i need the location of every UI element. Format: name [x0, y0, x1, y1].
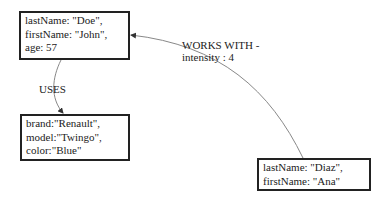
edge-label-uses: USES — [39, 83, 66, 95]
edge-label-line: WORKS WITH - — [182, 39, 259, 51]
edge-label-line: intensity : 4 — [182, 51, 259, 63]
node-car-renault[interactable]: brand:"Renault", model:"Twingo", color:"… — [20, 114, 130, 161]
node-line: brand:"Renault", — [26, 117, 124, 131]
edge-label-works-with: WORKS WITH - intensity : 4 — [182, 39, 259, 63]
node-line: firstName: "John", — [25, 28, 124, 42]
node-line: color:"Blue" — [26, 144, 124, 158]
node-line: lastName: "Diaz", — [263, 161, 365, 175]
node-line: age: 57 — [25, 41, 124, 55]
edge-label-line: USES — [39, 83, 66, 95]
node-line: firstName: "Ana" — [263, 175, 365, 189]
node-person-doe[interactable]: lastName: "Doe", firstName: "John", age:… — [19, 11, 130, 60]
node-person-diaz[interactable]: lastName: "Diaz", firstName: "Ana" — [257, 158, 371, 191]
node-line: lastName: "Doe", — [25, 14, 124, 28]
node-line: model:"Twingo", — [26, 131, 124, 145]
